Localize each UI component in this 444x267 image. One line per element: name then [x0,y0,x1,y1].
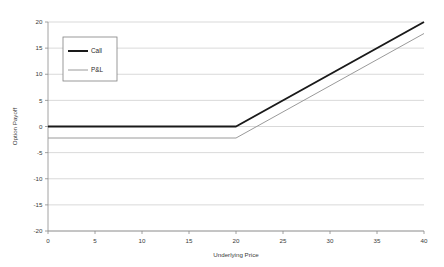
legend-label-call: Call [91,47,102,54]
x-axis-label: Underlying Price [213,251,259,258]
x-tick-label: 15 [186,237,193,244]
x-tick-label: 20 [233,237,240,244]
legend: Call P&L [63,37,117,81]
x-tick-label: 10 [139,237,146,244]
y-tick-label: 0 [39,123,43,130]
y-tick-label: -10 [34,175,44,182]
x-tick-label: 40 [421,237,428,244]
x-tick-label: 25 [280,237,287,244]
x-tick-label: 0 [46,237,50,244]
x-tick-label: 5 [93,237,97,244]
y-tick-label: -20 [34,227,44,234]
payoff-line-chart: -20-15-10-505101520 0510152025303540 Opt… [0,0,444,267]
y-tick-label: -5 [37,149,43,156]
y-axis-label: Option Payoff [11,108,18,146]
y-tick-label: 5 [39,97,43,104]
y-tick-label: -15 [34,201,44,208]
y-tick-label: 10 [36,70,43,77]
x-tick-label: 30 [327,237,334,244]
legend-label-pnl: P&L [91,66,104,73]
legend-border [63,37,117,81]
y-tick-label: 15 [36,44,43,51]
chart-container: -20-15-10-505101520 0510152025303540 Opt… [0,0,444,267]
y-tick-label: 20 [36,18,43,25]
x-tick-label: 35 [374,237,381,244]
